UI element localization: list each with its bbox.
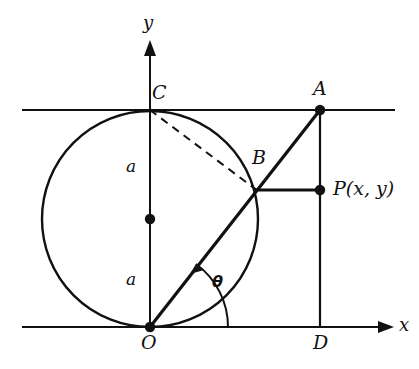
radius-label-upper: a (126, 158, 136, 175)
diagram-canvas: y x C A B O D P(x, y) a a θ (0, 0, 419, 369)
axis-x-arrowhead (378, 321, 394, 333)
axis-y-label: y (143, 14, 153, 32)
point-label-P: P(x, y) (333, 179, 394, 198)
point-label-A: A (313, 79, 327, 98)
ray-OA (150, 110, 320, 327)
axis-y-arrowhead (144, 40, 156, 56)
point-label-O: O (141, 333, 157, 352)
point-label-B: B (252, 148, 266, 167)
chord-CB-dashed (150, 110, 258, 191)
radius-label-lower: a (126, 271, 136, 288)
point-dot-center (145, 214, 155, 224)
point-dot-A (315, 105, 325, 115)
axis-x-label: x (399, 316, 409, 334)
point-label-D: D (313, 333, 328, 352)
angle-label-theta: θ (212, 274, 223, 290)
angle-theta-arrowhead (190, 264, 204, 274)
point-dot-P (315, 185, 325, 195)
point-label-C: C (152, 83, 167, 102)
